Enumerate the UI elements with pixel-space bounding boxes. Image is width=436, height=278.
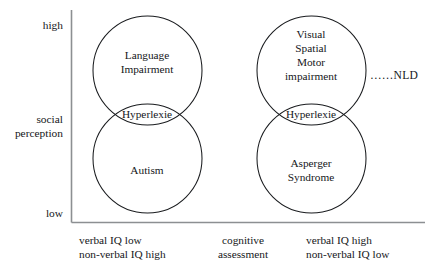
- left-top-circle-label-line2: Impairment: [121, 63, 174, 77]
- nld-annotation-text: NLD: [394, 69, 418, 82]
- right-overlap-label: Hyperlexie: [286, 108, 336, 122]
- right-top-circle-label-line4: impairment: [285, 70, 337, 84]
- right-bottom-circle-label-line1: Asperger: [290, 157, 331, 171]
- right-top-circle-label-line2: Spatial: [295, 42, 326, 56]
- y-axis-tick-low: low: [46, 207, 63, 221]
- left-bottom-circle-label: Autism: [130, 164, 163, 178]
- x-axis-center-label-line2: assessment: [218, 248, 268, 262]
- bottom-right-label-line2: non-verbal IQ low: [306, 248, 389, 262]
- bottom-left-label-line2: non-verbal IQ high: [79, 248, 166, 262]
- right-top-circle-label-line1: Visual: [297, 28, 326, 42]
- nld-leader-dots: ……: [370, 69, 394, 82]
- left-top-circle-label-line1: Language: [125, 49, 170, 63]
- right-bottom-circle-label-line2: Syndrome: [288, 171, 334, 185]
- x-axis-center-label-line1: cognitive: [222, 234, 264, 248]
- y-axis-tick-high: high: [43, 19, 63, 33]
- y-axis-title-line1: social: [36, 113, 63, 127]
- diagram-canvas: high low social perception Language Impa…: [0, 0, 436, 278]
- bottom-left-label-line1: verbal IQ low: [79, 234, 142, 248]
- left-overlap-label: Hyperlexie: [122, 108, 172, 122]
- y-axis-title-line2: perception: [15, 127, 63, 141]
- right-top-circle-label-line3: Motor: [297, 56, 325, 70]
- bottom-right-label-line1: verbal IQ high: [306, 234, 372, 248]
- nld-annotation: ……NLD: [370, 69, 418, 83]
